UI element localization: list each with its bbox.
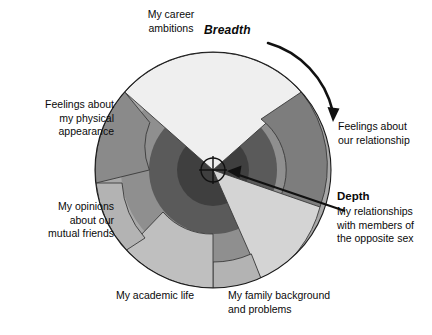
label-family-background: My family background and problems bbox=[228, 289, 388, 316]
onion-svg bbox=[0, 0, 432, 335]
onion-diagram: My career ambitions Feelings about my ph… bbox=[0, 0, 432, 335]
label-breadth: Breadth bbox=[204, 24, 284, 38]
label-our-relationship: Feelings about our relationship bbox=[338, 120, 432, 147]
label-depth-title: Depth bbox=[337, 190, 429, 204]
label-academic-life: My academic life bbox=[90, 289, 220, 303]
label-physical-appearance: Feelings about my physical appearance bbox=[6, 98, 114, 139]
label-mutual-friends: My opinions about our mutual friends bbox=[4, 200, 114, 241]
label-opposite-sex: My relationships with members of the opp… bbox=[337, 205, 432, 246]
